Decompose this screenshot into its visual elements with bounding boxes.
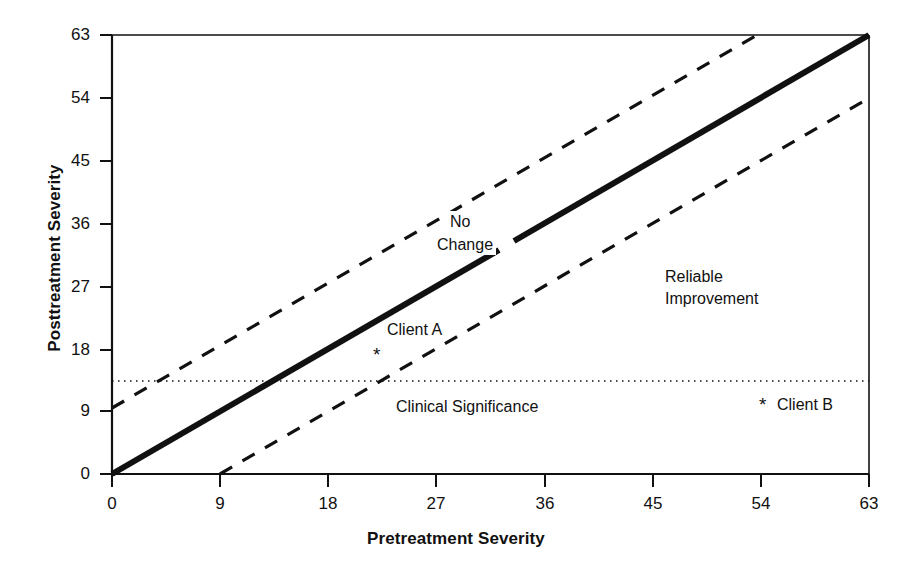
reliable-change-upper-dashed-line [112,35,757,408]
y-axis-title: Posttreatment Severity [45,98,65,418]
y-tick-marks [100,35,112,474]
x-tick-label-45: 45 [633,494,673,514]
x-axis-title: Pretreatment Severity [0,529,912,549]
client-b-marker: * [759,400,766,410]
no-change-line-segment-upper [514,35,869,241]
x-tick-label-9: 9 [200,494,240,514]
client-b-label: Client B [777,396,833,414]
annotation-clinical-significance: Clinical Significance [396,396,538,417]
x-tick-label-27: 27 [416,494,456,514]
plot-canvas [0,0,912,573]
clinical-significance-chart: 63 54 45 36 27 18 9 0 0 9 18 27 36 45 54… [0,0,912,573]
annotation-reliable-improvement-line1: Reliable [665,266,723,287]
y-tick-label-63: 63 [50,25,90,45]
client-a-label: Client A [385,321,444,339]
annotation-no-change-line2: Change [434,234,496,255]
x-tick-label-0: 0 [92,494,132,514]
x-tick-marks [112,474,869,487]
y-tick-label-0: 0 [50,464,90,484]
x-tick-label-63: 63 [849,494,889,514]
x-tick-label-54: 54 [741,494,781,514]
client-a-marker: * [373,350,380,360]
annotation-reliable-improvement-line2: Improvement [665,288,758,309]
reliable-change-lower-dashed-line [220,98,869,474]
annotation-no-change-line1: No [447,211,473,232]
x-tick-label-18: 18 [308,494,348,514]
x-tick-label-36: 36 [525,494,565,514]
no-change-line-segment-lower [112,250,499,474]
